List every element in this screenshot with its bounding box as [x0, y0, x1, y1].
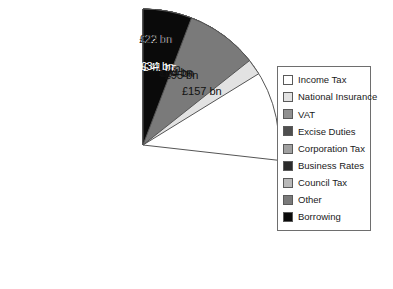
legend-color-swatch	[283, 109, 293, 119]
legend-color-swatch	[283, 161, 293, 171]
legend-item-label: Corporation Tax	[298, 144, 365, 154]
legend-item-label: Borrowing	[298, 212, 341, 222]
legend-item[interactable]: Excise Duties	[283, 123, 366, 139]
legend-item[interactable]: Council Tax	[283, 175, 366, 191]
pie-slices-group	[143, 9, 279, 160]
legend-color-swatch	[283, 195, 293, 205]
legend-color-swatch	[283, 126, 293, 136]
legend-item-label: Business Rates	[298, 161, 364, 171]
legend-item[interactable]: Income Tax	[283, 72, 366, 88]
legend-item-label: VAT	[298, 110, 315, 120]
legend-item-label: National Insurance	[298, 92, 377, 102]
legend-color-swatch	[283, 212, 293, 222]
legend-item[interactable]: Business Rates	[283, 158, 366, 174]
legend-item-label: Excise Duties	[298, 127, 356, 137]
legend-color-swatch	[283, 75, 293, 85]
legend-item-list: Income TaxNational InsuranceVATExcise Du…	[283, 72, 366, 225]
legend-item[interactable]: VAT	[283, 106, 366, 122]
legend-item[interactable]: Borrowing	[283, 209, 366, 225]
legend-item[interactable]: Other	[283, 192, 366, 208]
legend-color-swatch	[283, 92, 293, 102]
legend-item[interactable]: Corporation Tax	[283, 141, 366, 157]
legend-item-label: Income Tax	[298, 75, 346, 85]
legend-item-label: Other	[298, 195, 322, 205]
legend-color-swatch	[283, 144, 293, 154]
chart-legend: Income TaxNational InsuranceVATExcise Du…	[277, 66, 371, 231]
legend-color-swatch	[283, 178, 293, 188]
legend-item-label: Council Tax	[298, 178, 347, 188]
pie-chart-figure: £157 bn£95 bn£80 bn£41 bn£50 bn£22 bn£23…	[0, 0, 393, 289]
legend-item[interactable]: National Insurance	[283, 89, 366, 105]
